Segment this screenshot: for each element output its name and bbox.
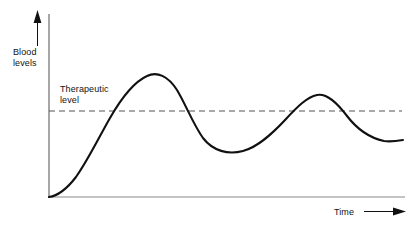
y-axis-label-line2: levels — [13, 58, 37, 69]
therapeutic-level-label-line1: Therapeutic — [60, 84, 109, 95]
plot-area — [0, 0, 420, 232]
therapeutic-level-label-line2: level — [60, 95, 109, 106]
y-axis-label-line1: Blood — [13, 47, 37, 58]
x-axis-label: Time — [334, 207, 354, 218]
therapeutic-level-label: Therapeutic level — [60, 84, 109, 106]
x-axis-direction-arrow-head — [393, 207, 406, 215]
y-axis-label: Blood levels — [13, 47, 37, 69]
pharmacokinetics-figure: Blood levels Therapeutic level Time — [0, 0, 420, 232]
y-axis-direction-arrow-head — [34, 10, 42, 23]
